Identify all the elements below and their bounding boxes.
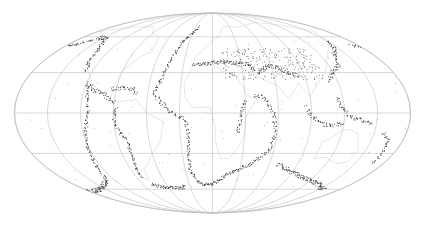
epicenter-dot <box>237 51 238 52</box>
epicenter-dot <box>171 186 172 187</box>
epicenter-dot <box>198 180 199 181</box>
epicenter-dot <box>335 66 336 67</box>
epicenter-dot <box>282 77 283 78</box>
epicenter-dot <box>93 162 94 163</box>
epicenter-dot <box>272 73 273 74</box>
epicenter-dot <box>323 188 324 189</box>
epicenter-dot <box>246 167 247 168</box>
epicenter-dot <box>103 177 104 178</box>
epicenter-dot <box>220 180 221 181</box>
epicenter-dot <box>314 118 315 119</box>
epicenter-dot <box>281 50 282 51</box>
epicenter-dot <box>259 71 260 72</box>
epicenter-dot <box>265 77 266 78</box>
epicenter-dot <box>332 73 333 74</box>
epicenter-dot <box>123 137 124 138</box>
epicenter-dot <box>292 62 293 63</box>
epicenter-dot <box>188 145 189 146</box>
epicenter-dot <box>224 61 225 62</box>
epicenter-dot <box>282 71 283 72</box>
epicenter-dot <box>251 164 252 165</box>
epicenter-dot <box>97 191 98 192</box>
epicenter-dot <box>183 41 184 42</box>
epicenter-dot <box>140 176 141 177</box>
epicenter-dot <box>286 167 287 168</box>
epicenter-dot <box>304 67 305 68</box>
epicenter-dot <box>158 184 159 185</box>
epicenter-dot <box>329 81 330 82</box>
epicenter-dot <box>278 71 279 72</box>
epicenter-dot <box>307 180 308 181</box>
epicenter-dot <box>105 180 106 181</box>
epicenter-dot <box>334 54 335 55</box>
epicenter-dot <box>328 82 329 83</box>
epicenter-dot <box>110 99 111 100</box>
epicenter-dot <box>386 146 387 147</box>
epicenter-dot <box>279 51 280 52</box>
epicenter-dot <box>228 67 229 68</box>
epicenter-dot <box>210 64 211 65</box>
epicenter-dot <box>258 73 259 74</box>
epicenter-dot <box>264 62 265 63</box>
epicenter-dot <box>176 186 177 187</box>
epicenter-dot <box>260 69 261 70</box>
epicenter-dot <box>120 89 121 90</box>
epicenter-dot <box>248 58 249 59</box>
epicenter-dot <box>137 92 138 93</box>
epicenter-dot <box>270 105 271 106</box>
epicenter-dot <box>170 62 171 63</box>
epicenter-dot <box>212 120 213 121</box>
epicenter-dot <box>275 68 276 69</box>
epicenter-dot <box>98 90 99 91</box>
epicenter-dot <box>298 69 299 70</box>
epicenter-dot <box>103 182 104 183</box>
epicenter-dot <box>165 71 166 72</box>
epicenter-dot <box>152 183 153 184</box>
epicenter-dot <box>302 77 303 78</box>
epicenter-dot <box>353 120 354 121</box>
epicenter-dot <box>180 187 181 188</box>
epicenter-dot <box>223 176 224 177</box>
epicenter-dot <box>87 113 88 114</box>
epicenter-dot <box>298 51 299 52</box>
epicenter-dot <box>274 122 275 123</box>
epicenter-dot <box>245 79 246 80</box>
epicenter-dot <box>334 124 335 125</box>
epicenter-dot <box>159 98 160 99</box>
epicenter-dot <box>207 62 208 63</box>
epicenter-dot <box>289 65 290 66</box>
epicenter-dot <box>246 62 247 63</box>
epicenter-dot <box>314 64 315 65</box>
epicenter-dot <box>226 173 227 174</box>
epicenter-dot <box>235 170 236 171</box>
epicenter-dot <box>339 98 340 99</box>
epicenter-dot <box>369 124 370 125</box>
epicenter-dot <box>307 72 308 73</box>
epicenter-dot <box>120 87 121 88</box>
epicenter-dot <box>333 47 334 48</box>
epicenter-dot <box>283 68 284 69</box>
epicenter-dot <box>117 107 118 108</box>
epicenter-dot <box>116 86 117 87</box>
epicenter-dot <box>86 139 87 140</box>
epicenter-dot <box>330 79 331 80</box>
epicenter-dot <box>253 56 254 57</box>
epicenter-dot <box>263 66 264 67</box>
epicenter-dot <box>183 186 184 187</box>
epicenter-dot <box>237 170 238 171</box>
epicenter-dot <box>185 120 186 121</box>
epicenter-dot <box>257 73 258 74</box>
epicenter-dot <box>267 65 268 66</box>
epicenter-dot <box>250 65 251 66</box>
epicenter-dot <box>115 89 116 90</box>
epicenter-dot <box>294 69 295 70</box>
epicenter-dot <box>240 61 241 62</box>
epicenter-dot <box>305 76 306 77</box>
epicenter-dot <box>97 51 98 52</box>
epicenter-dot <box>108 96 109 97</box>
epicenter-dot <box>160 187 161 188</box>
epicenter-dot <box>360 118 361 119</box>
epicenter-dot <box>121 133 122 134</box>
epicenter-dot <box>293 76 294 77</box>
epicenter-dot <box>318 121 319 122</box>
